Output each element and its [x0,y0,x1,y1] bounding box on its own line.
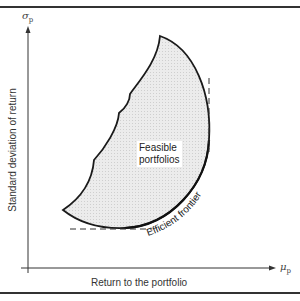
y-axis-symbol: σp [22,10,33,24]
x-axis-symbol: μp [280,261,291,275]
feasible-label-line2: portfolios [139,154,180,166]
y-axis-label: Standard deviation of return [7,80,18,220]
x-axis [21,266,276,271]
y-axis-arrow-icon [26,26,31,33]
x-axis-arrow-icon [269,266,276,271]
y-axis [26,26,31,273]
x-axis-label: Return to the portfolio [91,277,187,288]
feasible-label-line1: Feasible [139,142,180,154]
feasible-region-label: Feasible portfolios [137,141,182,167]
